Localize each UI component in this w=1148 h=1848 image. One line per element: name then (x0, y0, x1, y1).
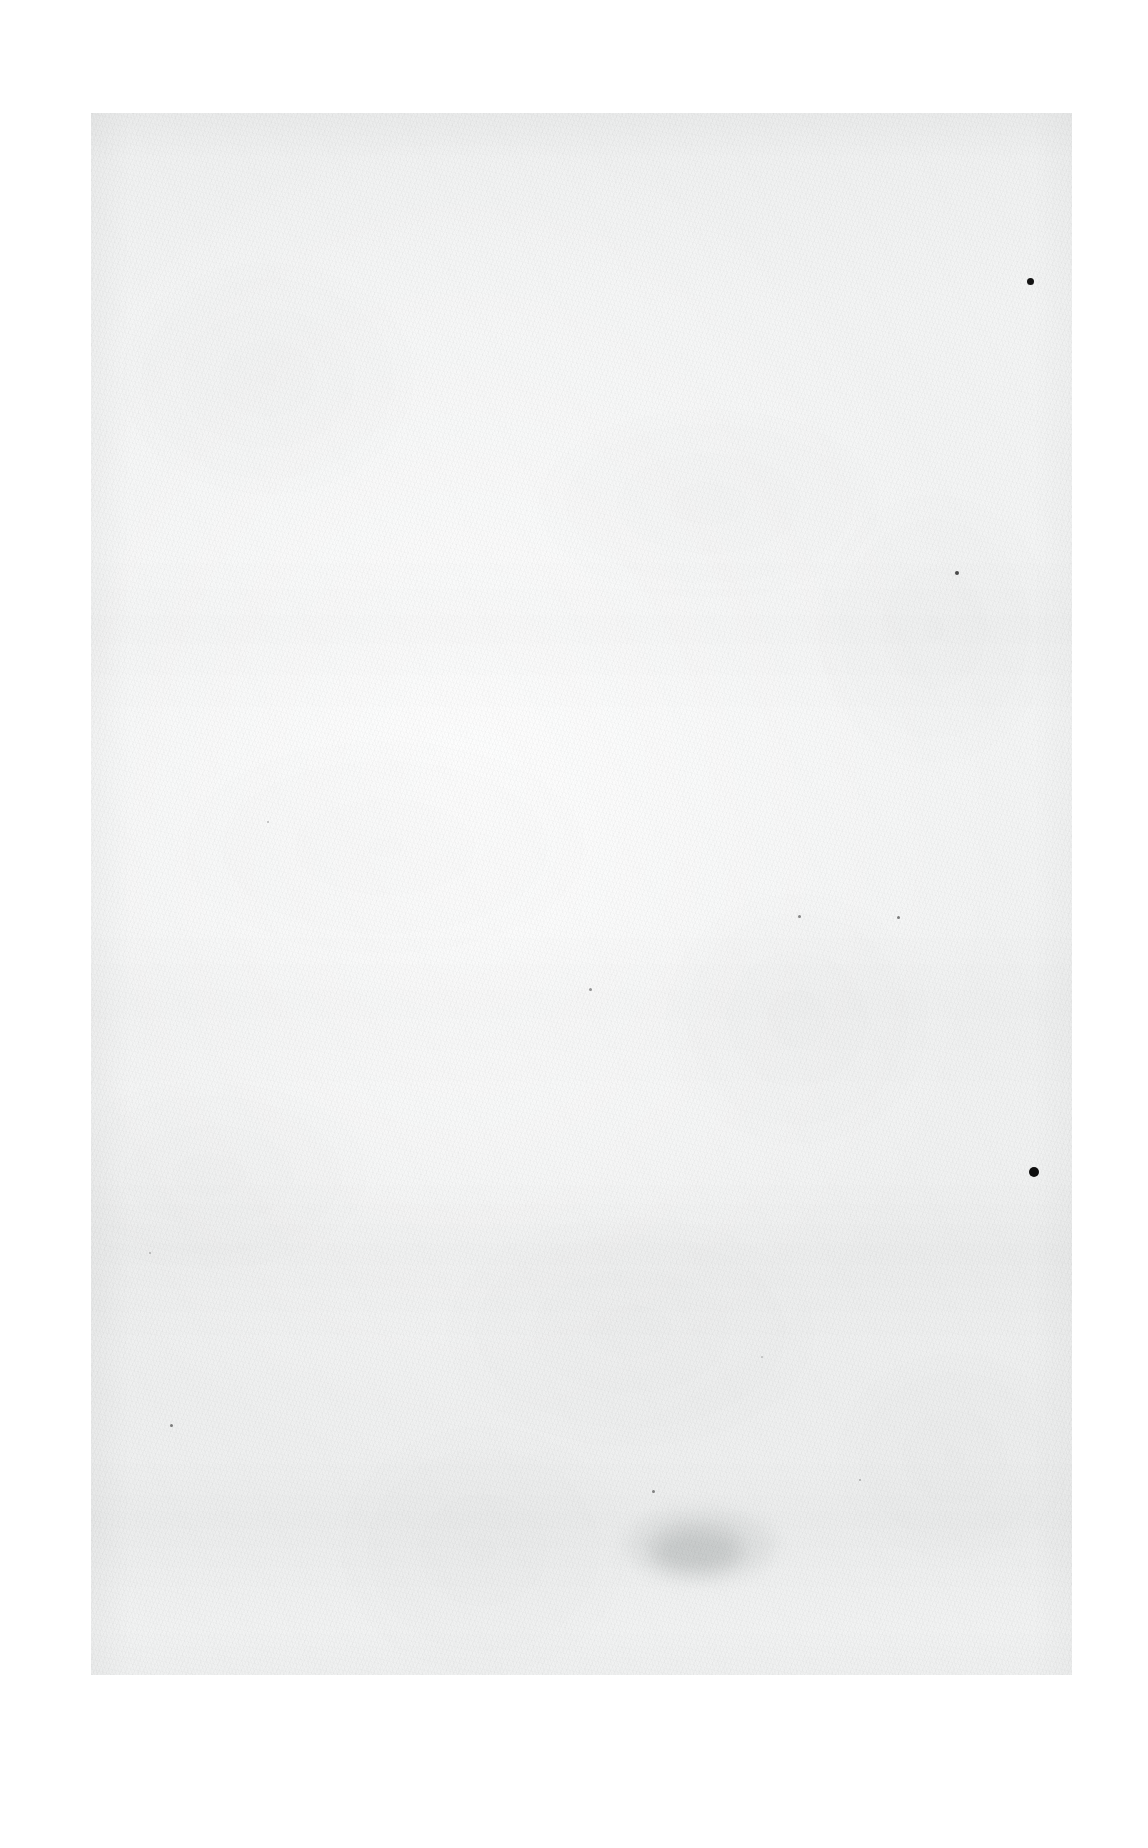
scan-canvas (0, 0, 1148, 1848)
page-text-content (91, 113, 1072, 1675)
scanned-page-sheet (91, 113, 1072, 1675)
